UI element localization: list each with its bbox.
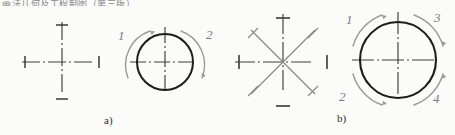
- panel-a: 1 2: [22, 22, 213, 102]
- b1-tick-diag-se: [308, 86, 318, 96]
- b2-arc-arrow-1: [353, 15, 382, 46]
- b1-tick-diag-sw: [248, 86, 258, 96]
- b2-arc-arrow-2: [353, 74, 382, 105]
- a2-arc-label-2: 2: [206, 27, 213, 42]
- a2-arc-arrow-1-head: [150, 31, 155, 35]
- b2-arc-label-4: 4: [433, 91, 440, 106]
- panel-b: 1 3 2 4: [235, 10, 446, 110]
- a-step-1-center-lines-cross: [22, 22, 102, 102]
- panel-b-caption: b): [337, 112, 346, 124]
- circle-drawing-steps-diagram: 1 2: [0, 0, 455, 135]
- b-step-1-eight-spoke-construction: [235, 14, 331, 110]
- a-step-2-circle-two-arcs: [126, 27, 206, 97]
- b2-arc-label-3: 3: [433, 10, 441, 25]
- b1-tick-diag-ne: [308, 28, 318, 38]
- b1-tick-diag-nw: [248, 28, 258, 38]
- b2-arc-arrow-1-head: [382, 15, 387, 19]
- b2-arc-arrow-2-head: [382, 101, 387, 105]
- a2-arc-label-1: 1: [118, 28, 125, 43]
- panel-a-caption: a): [104, 114, 113, 126]
- b2-arc-label-1: 1: [346, 12, 353, 27]
- figure-illustration: 画法几何及工程制图（第三版）: [0, 0, 455, 135]
- b2-arc-label-2: 2: [339, 89, 346, 104]
